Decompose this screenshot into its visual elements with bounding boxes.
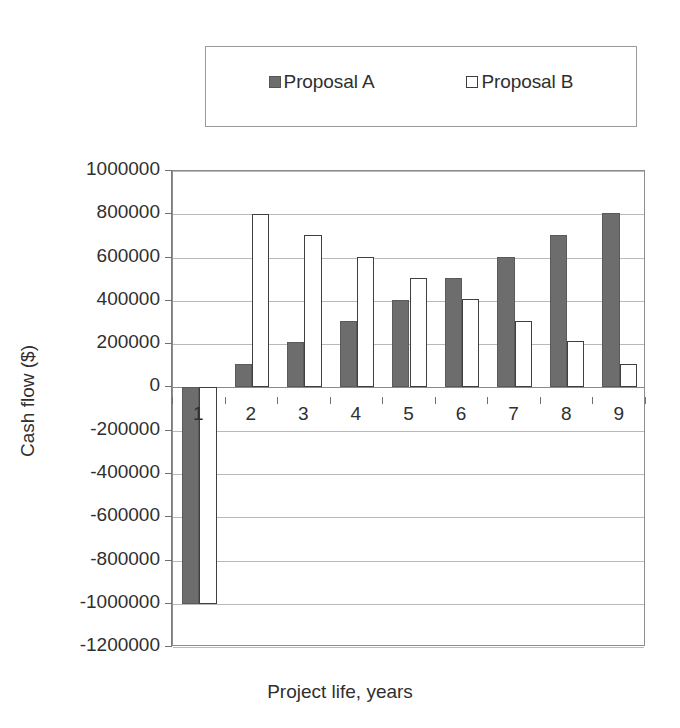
gridline-800000	[173, 214, 644, 215]
legend-entry-proposal-b: Proposal B	[466, 71, 573, 93]
y-tick-label--800000: -800000	[40, 548, 160, 570]
x-tick-label-4: 4	[330, 403, 382, 425]
cash-flow-bar-chart: Proposal A Proposal B Cash flow ($) 1000…	[0, 0, 680, 728]
y-tick--600000	[165, 516, 172, 517]
y-tick-label--200000: -200000	[40, 418, 160, 440]
gridline--1000000	[173, 604, 644, 605]
gridline--200000	[173, 431, 644, 432]
y-tick-label-400000: 400000	[40, 288, 160, 310]
y-tick-400000	[165, 300, 172, 301]
y-tick-label--1000000: -1000000	[40, 591, 160, 613]
y-tick-label-600000: 600000	[40, 245, 160, 267]
legend-label-proposal-b: Proposal B	[481, 71, 573, 93]
gridline--600000	[173, 517, 644, 518]
x-tick-label-6: 6	[435, 403, 487, 425]
bar-proposal-a-year-2	[235, 364, 252, 388]
y-tick-600000	[165, 257, 172, 258]
x-tick-label-1: 1	[172, 403, 224, 425]
gridline--400000	[173, 474, 644, 475]
y-tick-1000000	[165, 170, 172, 171]
x-tick-label-7: 7	[488, 403, 540, 425]
bar-proposal-a-year-6	[445, 278, 462, 387]
x-tick-label-3: 3	[277, 403, 329, 425]
x-tick-end	[645, 397, 646, 404]
bar-proposal-a-year-3	[287, 342, 304, 387]
y-tick-label-0: 0	[40, 374, 160, 396]
x-tick-label-9: 9	[593, 403, 645, 425]
y-tick--400000	[165, 473, 172, 474]
y-tick--1000000	[165, 603, 172, 604]
bar-proposal-a-year-7	[497, 257, 514, 388]
y-tick-label-200000: 200000	[40, 331, 160, 353]
y-tick--200000	[165, 430, 172, 431]
y-tick-label-800000: 800000	[40, 201, 160, 223]
gridline-0	[173, 387, 644, 388]
bar-proposal-b-year-9	[620, 364, 637, 388]
x-tick-label-2: 2	[225, 403, 277, 425]
y-tick-label--600000: -600000	[40, 504, 160, 526]
bar-proposal-b-year-6	[462, 299, 479, 388]
gridline-400000	[173, 301, 644, 302]
y-tick-label-1000000: 1000000	[40, 158, 160, 180]
y-tick-label--400000: -400000	[40, 461, 160, 483]
legend-label-proposal-a: Proposal A	[284, 71, 375, 93]
gridline-600000	[173, 258, 644, 259]
y-tick--1200000	[165, 646, 172, 647]
gridline-1000000	[173, 171, 644, 172]
y-tick--800000	[165, 560, 172, 561]
hollow-square-marker-icon	[466, 76, 478, 88]
legend-entry-proposal-a: Proposal A	[269, 71, 375, 93]
y-tick-label--1200000: -1200000	[40, 634, 160, 656]
x-axis-title: Project life, years	[0, 681, 680, 703]
filled-square-marker-icon	[269, 76, 281, 88]
x-tick-label-8: 8	[540, 403, 592, 425]
gridline--800000	[173, 561, 644, 562]
bar-proposal-b-year-4	[357, 257, 374, 388]
bar-proposal-b-year-8	[567, 341, 584, 388]
y-tick-800000	[165, 213, 172, 214]
chart-legend: Proposal A Proposal B	[205, 46, 637, 127]
bar-proposal-b-year-7	[515, 321, 532, 387]
y-tick-0	[165, 386, 172, 387]
y-axis-tick-labels: 10000008000006000004000002000000-200000-…	[38, 0, 160, 728]
legend-entries: Proposal A Proposal B	[206, 67, 636, 97]
gridline--1200000	[173, 647, 644, 648]
y-axis-title: Cash flow ($)	[17, 321, 39, 481]
bar-proposal-b-year-5	[410, 278, 427, 387]
y-tick-200000	[165, 343, 172, 344]
x-tick-label-5: 5	[383, 403, 435, 425]
gridline-200000	[173, 344, 644, 345]
bar-proposal-a-year-4	[340, 321, 357, 387]
